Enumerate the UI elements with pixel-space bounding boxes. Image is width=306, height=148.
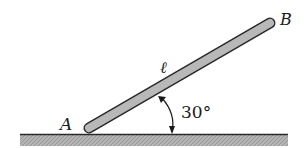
ground-hatch <box>20 135 288 146</box>
rod <box>89 23 270 128</box>
label-end-b: B <box>279 10 292 29</box>
arrowhead-icon <box>169 126 175 134</box>
ground <box>20 135 288 147</box>
label-angle: 30° <box>181 102 211 122</box>
angle-arc <box>158 96 175 134</box>
label-length: ℓ <box>160 58 167 77</box>
rod-diagram: A B ℓ 30° <box>0 0 306 148</box>
label-end-a: A <box>58 114 72 134</box>
